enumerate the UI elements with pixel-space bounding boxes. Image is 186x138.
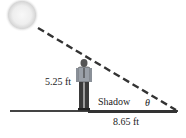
length-label: 8.65 ft — [113, 116, 139, 127]
shadow-label: Shadow — [98, 96, 130, 107]
diagram-canvas — [0, 0, 186, 138]
person-icon — [76, 59, 92, 111]
sun-icon — [5, 0, 39, 32]
angle-label: θ — [145, 97, 150, 108]
height-label: 5.25 ft — [45, 76, 71, 87]
